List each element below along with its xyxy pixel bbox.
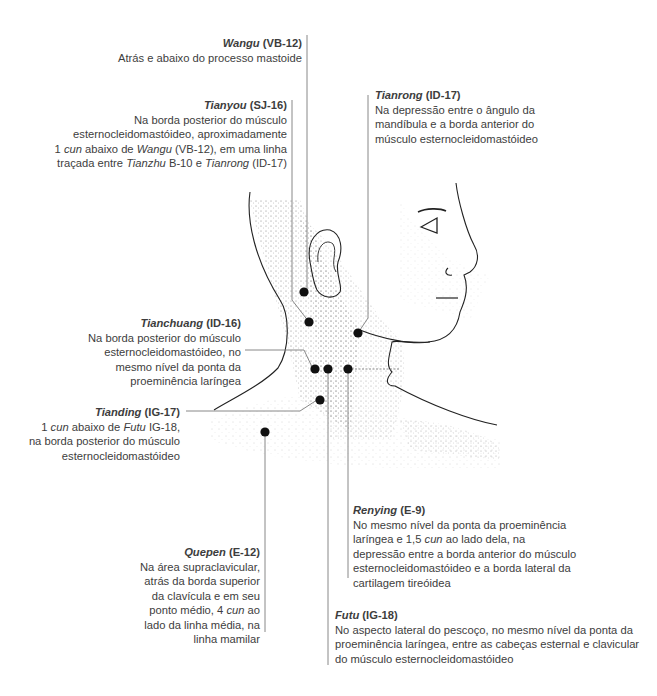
point-title: Quepen (E-12) xyxy=(140,545,260,560)
point-futu[interactable] xyxy=(323,364,332,373)
point-title: Futu (IG-18) xyxy=(335,608,639,623)
description-line: No aspecto lateral do pescoço, no mesmo … xyxy=(335,623,639,638)
point-code: (E-9) xyxy=(397,504,425,516)
eye xyxy=(421,218,437,233)
description-line: ponto médio, 4 cun ao xyxy=(140,603,260,618)
point-wangu[interactable] xyxy=(299,287,308,296)
point-title: Tianrong (ID-17) xyxy=(375,88,538,103)
description-line: cartilagem tireóidea xyxy=(353,576,576,591)
eyebrow xyxy=(418,209,446,212)
point-name: Tianyou xyxy=(204,99,247,111)
point-name: Quepen xyxy=(184,546,226,558)
description-line: do músculo esternocleidomastóideo xyxy=(335,652,639,667)
point-code: (E-12) xyxy=(226,546,260,558)
description-line: Na borda posterior do músculo xyxy=(55,113,287,128)
point-tianding[interactable] xyxy=(315,395,324,404)
description-line: mandíbula e a borda anterior do xyxy=(375,117,538,132)
description-line: Na borda posterior do músculo xyxy=(88,331,241,346)
label-wangu: Wangu (VB-12)Atrás e abaixo do processo … xyxy=(118,36,302,65)
description-line: Na depressão entre o ângulo da xyxy=(375,103,538,118)
point-title: Tianyou (SJ-16) xyxy=(55,98,287,113)
point-code: (IG-18) xyxy=(359,609,398,621)
description-line: músculo esternocleidomastóideo xyxy=(375,132,538,147)
point-renying[interactable] xyxy=(343,364,352,373)
description-line: Atrás e abaixo do processo mastoide xyxy=(118,51,302,66)
description-line: Na área supraclavicular, xyxy=(140,560,260,575)
point-code: (SJ-16) xyxy=(247,99,287,111)
label-tianrong: Tianrong (ID-17)Na depressão entre o âng… xyxy=(375,88,538,146)
description-line: esternocleidomastóideo, aproximadamente xyxy=(55,127,287,142)
description-line: laríngea e 1,5 cun ao lado dela, na xyxy=(353,532,576,547)
label-tianyou: Tianyou (SJ-16)Na borda posterior do mús… xyxy=(55,98,287,171)
description-line: esternocleidomastóideo xyxy=(29,449,180,464)
description-line: lado da linha média, na xyxy=(140,618,260,633)
label-tianchuang: Tianchuang (ID-16)Na borda posterior do … xyxy=(88,316,241,389)
point-code: (ID-16) xyxy=(203,317,241,329)
description-line: proeminência laríngea, entre as cabeças … xyxy=(335,637,639,652)
description-line: esternocleidomastóideo e a borda lateral… xyxy=(353,561,576,576)
label-tianding: Tianding (IG-17)1 cun abaixo de Futu IG-… xyxy=(29,405,180,463)
point-code: (IG-17) xyxy=(141,406,180,418)
description-line: linha mamilar xyxy=(140,632,260,647)
description-line: proeminência laríngea xyxy=(88,374,241,389)
point-name: Tianrong xyxy=(375,89,423,101)
point-code: (VB-12) xyxy=(260,37,302,49)
description-line: traçada entre Tianzhu B-10 e Tianrong (I… xyxy=(55,156,287,171)
point-name: Tianchuang xyxy=(141,317,204,329)
point-quepen[interactable] xyxy=(260,427,269,436)
point-name: Tianding xyxy=(95,406,141,418)
description-line: esternocleidomastóideo, no xyxy=(88,345,241,360)
point-name: Futu xyxy=(335,609,359,621)
description-line: 1 cun abaixo de Futu IG-18, xyxy=(29,420,180,435)
point-title: Renying (E-9) xyxy=(353,503,576,518)
point-tianchuang[interactable] xyxy=(310,364,319,373)
label-futu: Futu (IG-18)No aspecto lateral do pescoç… xyxy=(335,608,639,666)
description-line: 1 cun abaixo de Wangu (VB-12), em uma li… xyxy=(55,142,287,157)
point-tianyou[interactable] xyxy=(304,317,313,326)
description-line: atrás da borda superior xyxy=(140,574,260,589)
point-title: Tianchuang (ID-16) xyxy=(88,316,241,331)
point-title: Tianding (IG-17) xyxy=(29,405,180,420)
point-tianrong[interactable] xyxy=(353,328,362,337)
label-quepen: Quepen (E-12)Na área supraclavicular,atr… xyxy=(140,545,260,647)
point-title: Wangu (VB-12) xyxy=(118,36,302,51)
description-line: na borda posterior do músculo xyxy=(29,434,180,449)
description-line: mesmo nível da ponta da xyxy=(88,360,241,375)
point-name: Renying xyxy=(353,504,397,516)
description-line: No mesmo nível da ponta da proeminência xyxy=(353,518,576,533)
description-line: da clavícula e em seu xyxy=(140,589,260,604)
point-name: Wangu xyxy=(223,37,260,49)
label-renying: Renying (E-9)No mesmo nível da ponta da … xyxy=(353,503,576,590)
point-code: (ID-17) xyxy=(423,89,461,101)
description-line: depressão entre a borda anterior do músc… xyxy=(353,547,576,562)
